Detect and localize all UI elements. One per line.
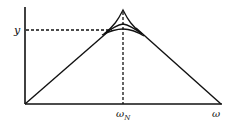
y-label: y (13, 24, 21, 37)
asymptote-falling (136, 28, 221, 104)
asymptote-rising (25, 30, 110, 104)
diagram: y ωN ω (0, 0, 233, 124)
omega-label: ω (212, 108, 220, 119)
omega-n-label: ωN (116, 108, 131, 122)
